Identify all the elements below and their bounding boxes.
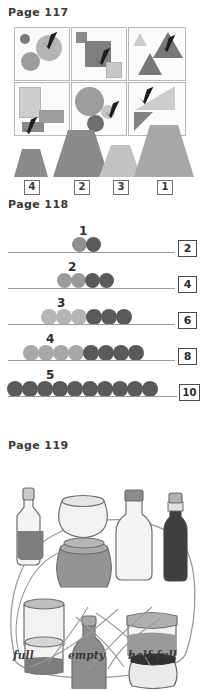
answer-box-1[interactable]: 2 bbox=[178, 240, 197, 257]
bead-row-line bbox=[8, 324, 175, 325]
bead-row-2: 2 4 bbox=[0, 262, 203, 300]
bead-row-number: 4 bbox=[46, 332, 54, 346]
page-119: Page 119 bbox=[0, 437, 203, 690]
grid-cell-1[interactable] bbox=[14, 27, 70, 81]
bead-row-number: 2 bbox=[68, 260, 76, 274]
tall-decanter bbox=[17, 488, 44, 565]
answer-box-5[interactable]: 10 bbox=[179, 384, 200, 401]
bead-dark bbox=[67, 381, 83, 397]
bead-dark bbox=[86, 237, 101, 252]
page-118: Page 118 1 2 2 4 3 6 bbox=[0, 196, 203, 436]
bead-dark bbox=[112, 381, 128, 397]
bead-dark bbox=[116, 309, 132, 325]
small-dark-circle-icon bbox=[20, 34, 30, 44]
page-title-118: Page 118 bbox=[0, 196, 203, 211]
clear-bottle bbox=[116, 490, 152, 580]
grid-cell-5[interactable] bbox=[71, 82, 127, 136]
label-full[interactable]: full bbox=[13, 649, 34, 661]
bead-dark bbox=[86, 309, 102, 325]
wide-jar bbox=[57, 538, 112, 587]
bead-dark bbox=[113, 345, 129, 361]
medium-gray-circle-icon bbox=[21, 52, 40, 71]
check-mark-icon bbox=[39, 30, 61, 52]
bead-row-line bbox=[8, 288, 175, 289]
trapezoid-1[interactable] bbox=[134, 125, 194, 177]
bead-light bbox=[38, 345, 54, 361]
grid-cell-3[interactable] bbox=[128, 27, 186, 81]
page-title-117: Page 117 bbox=[0, 0, 203, 19]
bead-row-number: 3 bbox=[57, 296, 65, 310]
bead-dark bbox=[127, 381, 143, 397]
small-light-triangle-icon bbox=[133, 33, 147, 46]
trapezoid-4[interactable] bbox=[14, 149, 48, 177]
check-mark-icon bbox=[19, 115, 41, 136]
bead-row-3: 3 6 bbox=[0, 298, 203, 336]
bead-row-5: 5 10 bbox=[0, 370, 203, 408]
bead-row-4: 4 8 bbox=[0, 334, 203, 372]
bead-light bbox=[56, 309, 72, 325]
bead-light bbox=[41, 309, 57, 325]
label-empty[interactable]: empty bbox=[68, 649, 105, 661]
bead-light bbox=[57, 273, 72, 288]
bead-row-line bbox=[8, 396, 177, 397]
label-half-full[interactable]: half-full bbox=[128, 649, 177, 661]
bead-dark bbox=[82, 381, 98, 397]
shape-grid bbox=[14, 27, 186, 136]
bead-group[interactable] bbox=[72, 237, 101, 252]
bead-dark bbox=[97, 381, 113, 397]
bead-dark bbox=[52, 381, 68, 397]
round-bowl bbox=[59, 496, 108, 538]
bead-light bbox=[71, 309, 87, 325]
bead-light bbox=[72, 237, 87, 252]
bead-dark bbox=[22, 381, 38, 397]
trapezoid-label-3: 3 bbox=[113, 180, 129, 195]
check-mark-icon bbox=[101, 99, 123, 121]
answer-box-2[interactable]: 4 bbox=[178, 276, 197, 293]
bead-dark bbox=[142, 381, 158, 397]
bead-dark bbox=[98, 345, 114, 361]
bead-dark bbox=[101, 309, 117, 325]
bead-dark bbox=[37, 381, 53, 397]
bead-group[interactable] bbox=[7, 381, 158, 397]
bead-dark bbox=[83, 345, 99, 361]
bead-row-number: 5 bbox=[46, 368, 54, 382]
check-mark-icon bbox=[157, 33, 179, 55]
trapezoid-row: 4 2 3 1 bbox=[0, 140, 203, 195]
dark-slim-bottle bbox=[164, 493, 187, 581]
check-mark-icon bbox=[135, 85, 157, 107]
bead-light bbox=[23, 345, 39, 361]
tall-light-rectangle-icon bbox=[19, 87, 41, 118]
bead-dark bbox=[7, 381, 23, 397]
page-117: Page 117 bbox=[0, 0, 203, 195]
bead-light bbox=[53, 345, 69, 361]
trapezoid-shape bbox=[14, 149, 48, 177]
bead-dark bbox=[128, 345, 144, 361]
bead-group[interactable] bbox=[23, 345, 144, 361]
bead-dark bbox=[99, 273, 114, 288]
bead-row-line bbox=[8, 252, 175, 253]
answer-box-4[interactable]: 8 bbox=[178, 348, 197, 365]
bead-light bbox=[71, 273, 86, 288]
bead-group[interactable] bbox=[41, 309, 132, 325]
medium-dark-triangle-icon bbox=[138, 53, 162, 75]
grid-cell-2[interactable] bbox=[71, 27, 127, 81]
check-mark-icon bbox=[92, 46, 114, 68]
trapezoid-label-2: 2 bbox=[74, 180, 90, 195]
page-title-119: Page 119 bbox=[0, 437, 203, 452]
bead-light bbox=[68, 345, 84, 361]
bead-row-number: 1 bbox=[79, 224, 87, 238]
grid-cell-4[interactable] bbox=[14, 82, 70, 136]
bead-dark bbox=[85, 273, 100, 288]
bead-group[interactable] bbox=[57, 273, 114, 288]
trapezoid-label-1: 1 bbox=[157, 180, 173, 195]
trapezoid-shape bbox=[134, 125, 194, 177]
trapezoid-label-4: 4 bbox=[24, 180, 40, 195]
bead-row-1: 1 2 bbox=[0, 226, 203, 264]
large-gray-circle-icon bbox=[75, 87, 104, 116]
bead-row-line bbox=[8, 360, 175, 361]
answer-box-3[interactable]: 6 bbox=[178, 312, 197, 329]
